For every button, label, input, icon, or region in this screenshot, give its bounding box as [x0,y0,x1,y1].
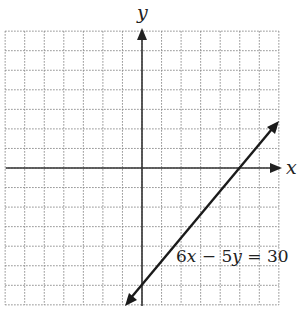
equation-label: 6x − 5y = 30 [176,246,289,266]
coordinate-plane: x y 6x − 5y = 30 [0,0,303,312]
equation-line [125,121,279,306]
x-axis-arrow-icon [270,163,282,173]
y-axis-arrow-icon [137,28,147,40]
x-axis-label: x [286,156,297,178]
line-arrow-bottom-icon [125,293,137,306]
y-axis-label: y [136,1,148,23]
